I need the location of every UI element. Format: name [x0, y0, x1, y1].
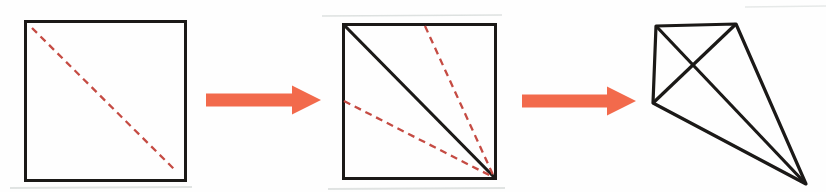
step2-valley-fold-top	[425, 26, 494, 177]
scan-smudge-bottom-mid	[328, 188, 505, 189]
step2-valley-fold-left	[344, 101, 493, 177]
diagram-svg	[0, 0, 826, 192]
step-arrow-1	[206, 86, 321, 115]
scan-smudge-top-right	[745, 6, 826, 7]
step1-valley-fold-line	[32, 28, 175, 170]
origami-kite-fold-diagram	[0, 0, 826, 192]
step2-diagonal-crease	[344, 25, 495, 178]
scan-smudge-top	[322, 15, 502, 16]
step3-crease-long	[656, 26, 806, 184]
step-arrow-2	[522, 87, 636, 116]
scan-smudge-bottom-left	[10, 187, 192, 188]
